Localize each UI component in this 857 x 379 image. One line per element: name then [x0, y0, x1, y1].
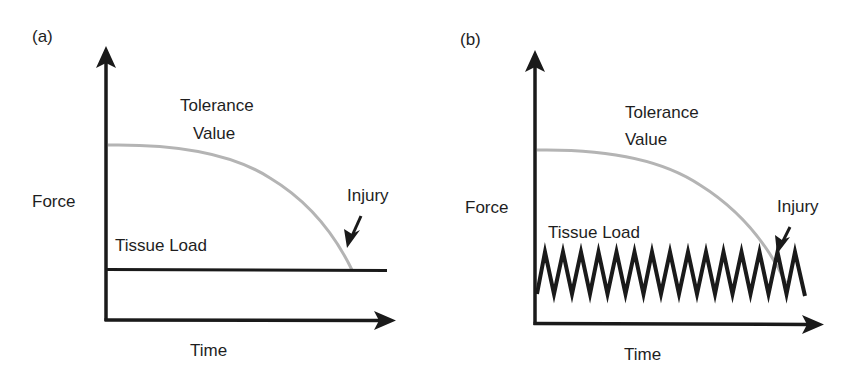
tolerance-curve-b	[537, 150, 786, 283]
panel-b: (b) Tolerance Value Force Tissue Load In…	[460, 30, 824, 364]
injury-arrow-a-icon	[344, 216, 361, 248]
injury-label-a: Injury	[347, 186, 389, 205]
tissue-tolerance-diagram: (a) Tolerance Value Force Tissue Load In…	[0, 0, 857, 379]
tissue-load-label-b: Tissue Load	[548, 223, 640, 242]
tolerance-label-a-line1: Tolerance	[180, 96, 254, 115]
y-axis-a	[96, 46, 116, 321]
panel-a-label: (a)	[32, 27, 53, 46]
panel-b-label: (b)	[460, 30, 481, 49]
force-axis-label-b: Force	[465, 198, 508, 217]
y-axis-b	[525, 50, 545, 325]
x-axis-b	[534, 315, 825, 334]
tolerance-label-b-line2: Value	[625, 130, 667, 149]
tissue-load-label-a: Tissue Load	[115, 236, 207, 255]
x-axis-a	[105, 311, 397, 330]
tolerance-label-b-line1: Tolerance	[625, 103, 699, 122]
injury-arrow-b-icon	[775, 227, 790, 254]
tolerance-label-a-line2: Value	[193, 124, 235, 143]
time-axis-label-a: Time	[190, 341, 227, 360]
panel-a: (a) Tolerance Value Force Tissue Load In…	[32, 27, 396, 360]
time-axis-label-b: Time	[624, 345, 661, 364]
force-axis-label-a: Force	[32, 192, 75, 211]
tissue-load-line-a	[106, 270, 387, 271]
tissue-load-zigzag-b	[537, 252, 805, 296]
injury-label-b: Injury	[777, 197, 819, 216]
